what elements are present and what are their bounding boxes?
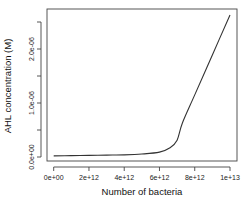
y-tick-label: 0.0e+00 <box>28 144 35 170</box>
x-tick-label: 4e+12 <box>114 174 134 181</box>
x-axis: 0e+002e+124e+126e+128e+121e+13 <box>44 167 240 181</box>
y-axis: 0.0e+001.0e-062.0e-06 <box>28 22 41 170</box>
ahl-concentration-line <box>54 15 230 156</box>
x-tick-label: 2e+12 <box>79 174 99 181</box>
x-axis-label: Number of bacteria <box>102 186 184 197</box>
x-tick-label: 1e+13 <box>220 174 240 181</box>
x-tick-label: 0e+00 <box>44 174 64 181</box>
x-tick-label: 6e+12 <box>150 174 170 181</box>
y-tick-label: 1.0e-06 <box>28 91 35 115</box>
line-chart: 0e+002e+124e+126e+128e+121e+13 0.0e+001.… <box>0 0 251 208</box>
plot-frame <box>47 9 237 161</box>
y-tick-label: 2.0e-06 <box>28 37 35 61</box>
x-tick-label: 8e+12 <box>185 174 205 181</box>
y-axis-label: AHL concentration (M) <box>2 39 13 134</box>
